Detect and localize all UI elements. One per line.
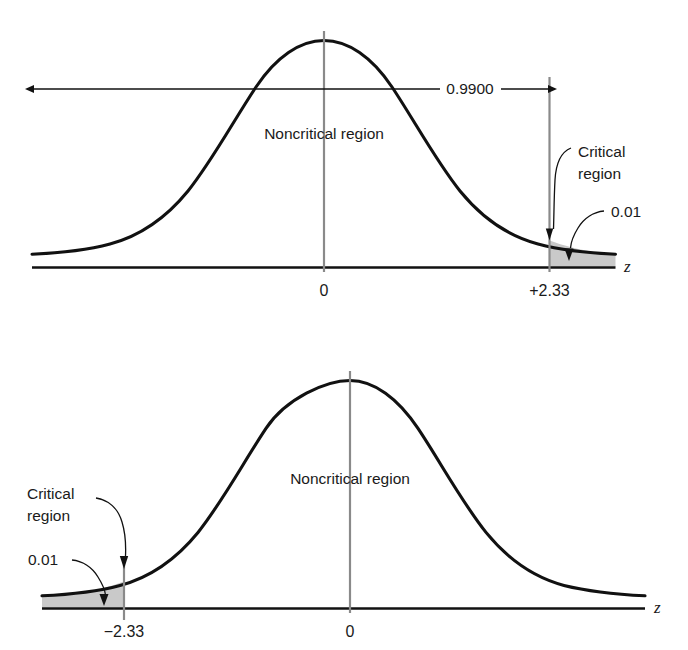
alpha-label-top: 0.01 [611,203,641,220]
alpha-label-bottom: 0.01 [28,551,58,568]
panel-top-right-tailed: 0.9900 Noncritical region Critical regio… [32,31,641,299]
tick-label-bottom-critical: −2.33 [104,623,145,640]
tick-label-bottom-0: 0 [346,623,355,640]
statistics-figure: 0.9900 Noncritical region Critical regio… [0,0,688,650]
axis-label-top-z: z [623,257,631,276]
critical-region-label-bottom-line1: Critical [27,485,74,502]
panel-bottom-left-tailed: Noncritical region Critical region 0.01 … [27,371,661,640]
normal-distribution-figure: 0.9900 Noncritical region Critical regio… [0,0,688,650]
noncritical-region-label-bottom: Noncritical region [290,470,410,487]
tick-label-top-critical: +2.33 [529,282,570,299]
critical-region-label-top-line1: Critical [578,143,625,160]
critical-region-label-top-line2: region [578,165,621,182]
critical-region-leader-bottom [96,498,126,556]
axis-label-bottom-z: z [653,598,661,617]
critical-region-leader-top [554,148,572,229]
critical-region-arrow-bottom [120,556,128,569]
alpha-leader-top [571,211,605,248]
critical-region-arrow-top [546,229,553,241]
noncritical-region-label-top: Noncritical region [264,125,384,142]
critical-region-label-bottom-line2: region [27,507,70,524]
confidence-label-top: 0.9900 [446,80,494,97]
normal-curve-bottom [42,381,645,596]
tick-label-top-0: 0 [320,282,329,299]
